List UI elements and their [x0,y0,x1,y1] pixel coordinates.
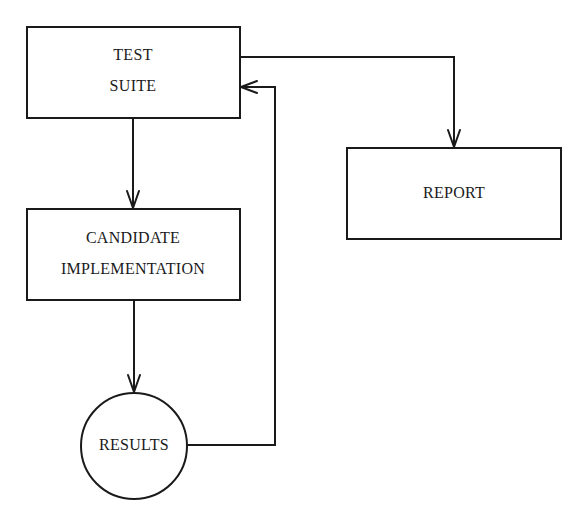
node-report-label: REPORT [423,184,485,201]
flowchart-diagram: TEST SUITE CANDIDATE IMPLEMENTATION RESU… [0,0,587,530]
node-test-suite-label-line2: SUITE [110,77,157,94]
edge-candidate-to-results [128,300,140,392]
node-candidate-label-line2: IMPLEMENTATION [61,260,205,277]
node-report: REPORT [347,148,561,239]
edge-test-suite-to-candidate [127,118,139,208]
node-candidate-label-line1: CANDIDATE [86,229,180,246]
node-test-suite-label-line1: TEST [113,46,152,63]
edge-test-suite-to-report [240,57,460,147]
node-results-label: RESULTS [99,436,169,453]
node-candidate-implementation: CANDIDATE IMPLEMENTATION [27,209,240,300]
node-results: RESULTS [81,393,187,499]
node-test-suite: TEST SUITE [27,27,240,118]
